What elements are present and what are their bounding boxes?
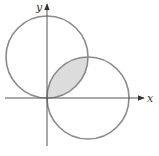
y-axis-label: y: [35, 1, 43, 14]
x-axis-label: x: [147, 92, 154, 105]
figure-canvas: x y: [0, 0, 159, 156]
